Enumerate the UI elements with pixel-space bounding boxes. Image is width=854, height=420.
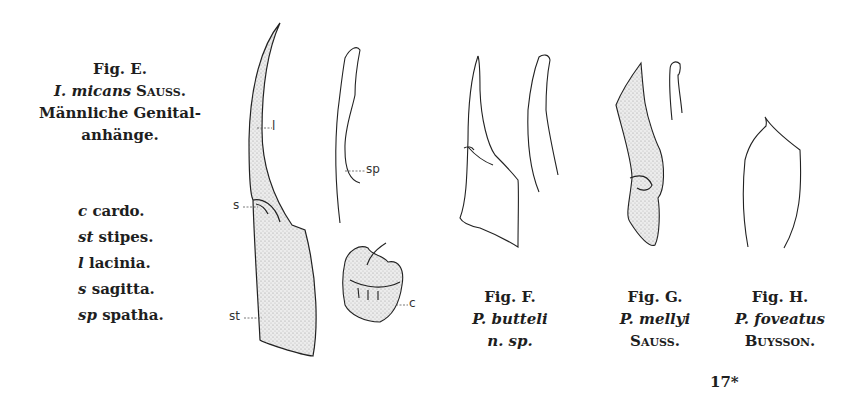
label-stipes: st [229,309,240,323]
label-sagitta: s [233,198,239,212]
fig-e-title: Fig. E. [0,58,240,80]
label-cardo: c [409,296,416,310]
fig-f-drawing [460,55,558,247]
fig-h-drawing [743,117,800,248]
fig-e-caption: Fig. E. I. micans Sauss. Männliche Genit… [0,58,240,146]
legend-item: c cardo. [78,198,164,224]
label-spatha: sp [366,162,380,176]
legend-item: s sagitta. [78,276,164,302]
fig-g-drawing [616,62,682,246]
fig-e-species-author: Sauss. [136,82,186,100]
fig-e-spatha-drawing [336,48,360,223]
fig-e-description-2: anhänge. [0,124,240,146]
fig-f-species-name: P. butteli [450,308,570,330]
fig-g-species-author: Sauss. [600,330,710,352]
legend-item: l lacinia. [78,250,164,276]
fig-g-species-name: P. mellyi [600,308,710,330]
fig-g-title: Fig. G. [600,286,710,308]
fig-h-species-author: Buysson. [720,330,840,352]
page-marker: 17* [710,373,739,391]
fig-e-lacinia-stipes-drawing [249,23,316,356]
fig-e-species-name: I. micans [54,82,131,100]
fig-f-title: Fig. F. [450,286,570,308]
fig-e-cardo-drawing [343,243,403,322]
fig-h-species-name: P. foveatus [720,308,840,330]
fig-e-species: I. micans Sauss. [0,80,240,102]
legend-item: st stipes. [78,224,164,250]
fig-f-note: n. sp. [450,330,570,352]
fig-h-title: Fig. H. [720,286,840,308]
fig-g-caption: Fig. G. P. mellyi Sauss. [600,286,710,352]
fig-e-description-1: Männliche Genital- [0,102,240,124]
label-lacinia: l [272,119,275,133]
fig-e-legend: c cardo. st stipes. l lacinia. s sagitta… [78,198,164,328]
fig-h-caption: Fig. H. P. foveatus Buysson. [720,286,840,352]
fig-f-caption: Fig. F. P. butteli n. sp. [450,286,570,352]
legend-item: sp spatha. [78,302,164,328]
